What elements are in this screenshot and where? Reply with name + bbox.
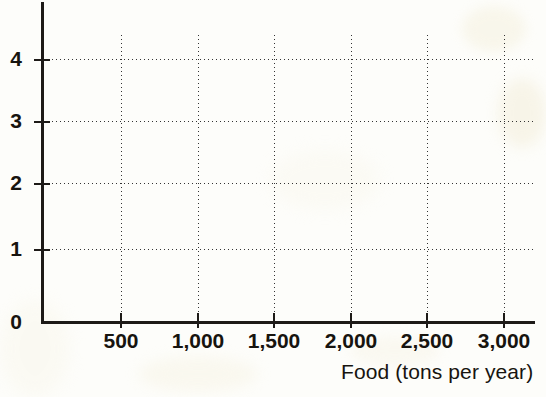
x-tick-label-500: 500 — [81, 330, 161, 351]
x-tick-label-1500: 1,500 — [234, 330, 314, 351]
x-axis-line — [41, 321, 535, 324]
y-tick-label-0: 0 — [0, 311, 22, 332]
y-tick-label-4: 4 — [0, 48, 22, 69]
plot-area — [44, 2, 535, 321]
x-tick-label-2000: 2,000 — [311, 330, 391, 351]
x-axis-title: Food (tons per year) — [341, 360, 533, 384]
chart-figure: 4 3 2 1 0 500 1,000 1,500 2,000 2,500 3,… — [0, 0, 546, 397]
y-tick-label-3: 3 — [0, 110, 22, 131]
x-tick-label-2500: 2,500 — [387, 330, 467, 351]
y-tick-label-1: 1 — [0, 238, 22, 259]
x-tick-label-3000: 3,000 — [464, 330, 544, 351]
x-tick-label-1000: 1,000 — [158, 330, 238, 351]
y-tick-label-2: 2 — [0, 172, 22, 193]
paper-stain — [138, 356, 258, 392]
